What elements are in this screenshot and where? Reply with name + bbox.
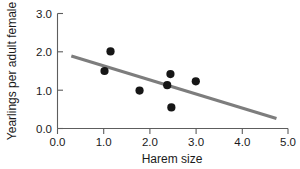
x-tick-label-0: 0.0	[50, 136, 66, 148]
x-tick-label-4: 4.0	[234, 136, 250, 148]
scatter-plot-figure: 3.0 2.0 1.0 0.0 0.0 1.0 2.0 3.0 4.0 5.0 …	[0, 0, 300, 169]
data-point	[192, 77, 200, 85]
x-tick-label-3: 3.0	[188, 136, 204, 148]
x-tick-label-1: 1.0	[96, 136, 112, 148]
data-point	[100, 67, 108, 75]
x-tick-label-5: 5.0	[280, 136, 296, 148]
y-tick-label-3: 3.0	[36, 8, 52, 20]
data-point	[163, 81, 171, 89]
y-tick-label-1: 1.0	[36, 85, 52, 97]
data-point	[167, 103, 175, 111]
data-point	[166, 70, 174, 78]
data-point	[106, 47, 114, 55]
y-tick-label-0: 0.0	[36, 123, 52, 135]
x-tick-label-2: 2.0	[142, 136, 158, 148]
y-tick-label-2: 2.0	[36, 46, 52, 58]
x-axis-title: Harem size	[142, 152, 203, 166]
plot-canvas: 3.0 2.0 1.0 0.0 0.0 1.0 2.0 3.0 4.0 5.0 …	[0, 0, 300, 169]
data-point	[135, 86, 143, 94]
y-axis-title: Yearlings per adult female	[5, 2, 19, 141]
